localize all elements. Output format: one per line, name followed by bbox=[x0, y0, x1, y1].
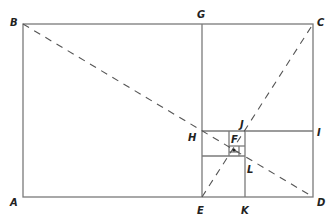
label-l: L bbox=[247, 164, 253, 175]
label-b: B bbox=[10, 17, 18, 28]
diagonal-bd bbox=[23, 24, 313, 197]
label-c: C bbox=[317, 17, 325, 28]
convergence-point bbox=[232, 148, 235, 151]
label-g: G bbox=[197, 9, 205, 20]
label-a: A bbox=[9, 197, 18, 208]
label-i: I bbox=[317, 127, 321, 138]
label-h: H bbox=[188, 132, 197, 143]
label-e: E bbox=[197, 205, 204, 216]
label-j: J bbox=[238, 119, 244, 130]
label-d: D bbox=[317, 197, 325, 208]
label-k: K bbox=[241, 205, 250, 216]
golden-rectangle-diagram: A B C D G E H I J K L F bbox=[0, 0, 336, 223]
label-f: F bbox=[231, 134, 238, 145]
diagonal-ec bbox=[202, 24, 313, 197]
